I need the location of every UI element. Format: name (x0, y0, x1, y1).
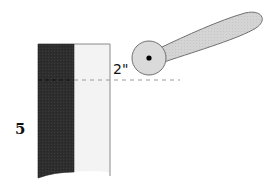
dark-panel (38, 44, 74, 178)
diagram-canvas (0, 0, 268, 184)
light-panel (74, 44, 110, 176)
arm-paddle (160, 12, 262, 62)
pivot-dot (146, 55, 151, 60)
dimension-label: 2" (113, 62, 128, 76)
side-number-label: 5 (15, 122, 25, 137)
